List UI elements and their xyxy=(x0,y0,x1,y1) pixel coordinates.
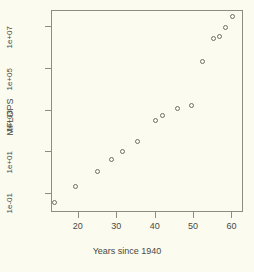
y-axis-tick-mark xyxy=(45,68,51,69)
x-axis-tick-mark xyxy=(116,212,117,218)
x-axis-tick-mark xyxy=(231,212,232,218)
x-axis-tick-mark xyxy=(78,212,79,218)
y-axis-tick-mark xyxy=(45,110,51,111)
y-axis-tick-mark xyxy=(45,26,51,27)
y-axis-tick-mark xyxy=(45,193,51,194)
x-axis-title: Years since 1940 xyxy=(0,246,254,256)
axis-layer: 1e-011e+011e+031e+051e+072030405060 xyxy=(0,0,254,272)
y-axis-tick-label-text: 1e+07 xyxy=(6,26,14,48)
y-axis-title-text: MFLOPS xyxy=(5,87,15,147)
x-axis-tick-mark xyxy=(155,212,156,218)
y-axis-title: MFLOPS xyxy=(3,86,17,146)
x-axis-tick-label: 20 xyxy=(63,221,93,231)
x-axis-tick-label: 40 xyxy=(140,221,170,231)
x-axis-tick-label: 30 xyxy=(101,221,131,231)
x-axis-tick-mark xyxy=(193,212,194,218)
scatter-plot-figure: 1e-011e+011e+031e+051e+072030405060 MFLO… xyxy=(0,0,254,272)
x-axis-tick-label: 60 xyxy=(216,221,246,231)
y-axis-tick-label-text: 1e+01 xyxy=(6,151,14,173)
x-axis-tick-label: 50 xyxy=(178,221,208,231)
y-axis-tick-label-text: 1e-01 xyxy=(6,193,14,213)
y-axis-tick-mark xyxy=(45,151,51,152)
